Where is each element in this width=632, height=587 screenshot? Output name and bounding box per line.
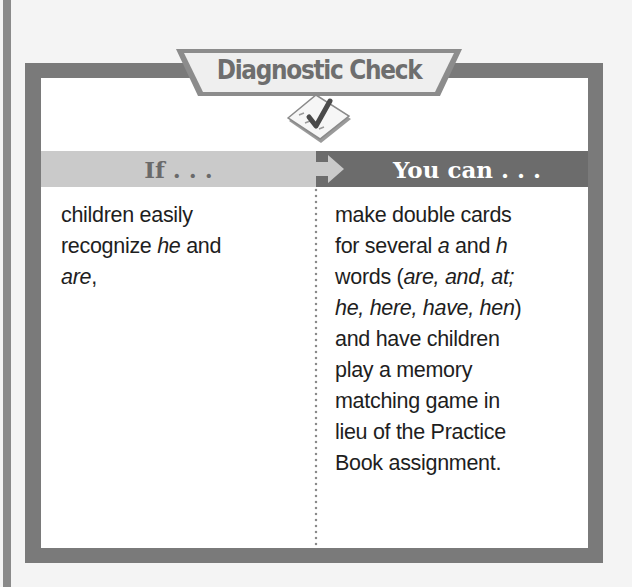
text-run: and [181, 234, 222, 258]
checklist-icon [283, 93, 355, 145]
title-banner: Diagnostic Check [172, 46, 466, 98]
you-can-text-line: words (are, and, at; [335, 262, 585, 293]
you-can-text-line: play a memory [335, 355, 585, 386]
italic-word: are, and, at; [403, 265, 514, 289]
italic-word: he [157, 234, 180, 258]
italic-word: he, here, have, hen [335, 296, 515, 320]
you-can-text-line: matching game in [335, 386, 585, 417]
if-text-line: children easily [61, 200, 301, 231]
you-can-action-text: make double cardsfor several a and hword… [335, 200, 585, 479]
arrow-right-icon [316, 151, 346, 187]
text-run: children easily [61, 203, 193, 227]
header-you-can: You can . . . [316, 151, 588, 187]
italic-word: h [496, 234, 508, 258]
header-if: If . . . [41, 151, 316, 187]
text-run: , [91, 265, 97, 289]
you-can-text-line: make double cards [335, 200, 585, 231]
text-run: make double cards [335, 203, 512, 227]
text-run: matching game in [335, 389, 500, 413]
text-run: Book assignment. [335, 451, 501, 475]
column-divider [314, 187, 318, 549]
text-run: play a memory [335, 358, 472, 382]
if-condition-text: children easilyrecognize he andare, [61, 200, 301, 293]
text-run: ) [515, 296, 522, 320]
if-text-line: are, [61, 262, 301, 293]
you-can-text-line: Book assignment. [335, 448, 585, 479]
italic-word: are [61, 265, 91, 289]
you-can-text-line: lieu of the Practice [335, 417, 585, 448]
you-can-text-line: for several a and h [335, 231, 585, 262]
text-run: and have children [335, 327, 500, 351]
text-run: for several [335, 234, 438, 258]
page-margin-bar [3, 0, 11, 587]
text-run: words ( [335, 265, 403, 289]
header-you-can-label: You can . . . [346, 151, 588, 187]
italic-word: a [438, 234, 450, 258]
text-run: lieu of the Practice [335, 420, 506, 444]
you-can-text-line: he, here, have, hen) [335, 293, 585, 324]
if-text-line: recognize he and [61, 231, 301, 262]
text-run: recognize [61, 234, 157, 258]
page-title: Diagnostic Check [193, 48, 446, 96]
text-run: and [449, 234, 495, 258]
header-if-label: If . . . [41, 151, 316, 187]
you-can-text-line: and have children [335, 324, 585, 355]
